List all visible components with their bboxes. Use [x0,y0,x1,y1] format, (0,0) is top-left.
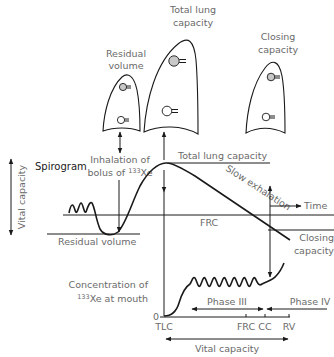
lung-cc-label-2: capacity [258,44,298,55]
total-lung-capacity-label: Total lung capacity [177,150,267,161]
concentration-curve [164,263,284,316]
x-tick-label-rv: RV [283,321,296,332]
lung-rv-label-1: Residual [106,48,146,59]
phase-3-label: Phase III [207,296,247,307]
concentration-ylabel-1: Concentration of [69,279,149,290]
vital-capacity-label: Vital capacity [195,343,260,354]
residual-volume-label: Residual volume [58,236,136,247]
phase-4-label: Phase IV [290,296,331,307]
concentration-ylabel-2: 133Xe at mouth [77,293,148,305]
closing-volume-diagram: Residual volume Total lung capacity [0,0,334,357]
spirogram-title: Spirogram [35,161,87,172]
time-label: Time [303,200,327,211]
lung-tlc-label-2: capacity [173,17,213,28]
inhalation-label-2: bolus of 133Xe [87,167,152,179]
x-tick-label-frc: FRC [237,321,256,332]
lung-outline [144,40,198,134]
lung-cc-label-1: Closing [261,31,296,42]
inhalation-label-1: Inhalation of [90,154,150,165]
lung-outline [246,62,285,133]
lung-closing-capacity: Closing capacity [246,31,298,133]
closing-capacity-label-2: capacity [294,245,334,256]
lung-tlc-label-1: Total lung [169,4,216,15]
lung-total-lung-capacity: Total lung capacity [144,4,216,134]
vital-capacity-axis-label: Vital capacity [16,165,27,230]
x-tick-label-cc: CC [258,321,272,332]
closing-capacity-label-1: Closing [299,232,334,243]
slow-exhalation-label: Slow exhalation [224,162,293,212]
lung-residual-volume: Residual volume [103,48,146,131]
frc-label: FRC [200,217,219,228]
x-tick-label-tlc: TLC [154,321,173,332]
lung-rv-label-2: volume [108,60,143,71]
